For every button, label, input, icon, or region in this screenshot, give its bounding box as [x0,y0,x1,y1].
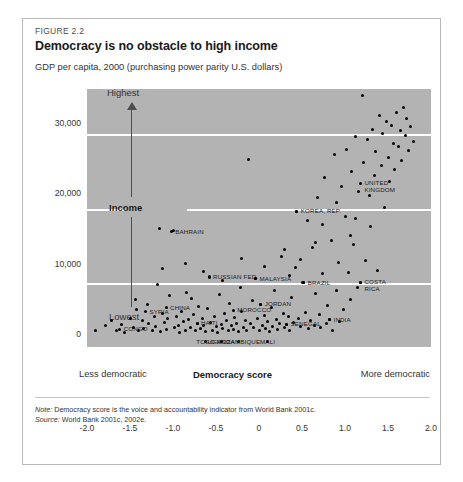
data-point [380,164,383,167]
data-point [216,331,219,334]
data-point [357,190,360,193]
figure-title: Democracy is no obstacle to high income [35,39,278,53]
point-label: UNITEDKINGDOM [364,179,395,193]
data-point [349,234,352,237]
data-point [325,322,328,325]
y-tick-30000: 30,000 [33,118,81,128]
data-point [393,168,396,171]
data-point [206,307,209,310]
data-point [337,261,340,264]
data-point [129,317,132,320]
data-point [288,329,291,332]
data-point [165,328,168,331]
data-point [151,329,154,332]
data-point [159,330,162,333]
data-point [184,262,187,265]
data-point [283,326,286,329]
note-label: Note: [35,405,52,414]
gridline-30000 [87,134,431,136]
data-point [323,176,326,179]
data-point [204,330,207,333]
data-point [342,308,345,311]
data-point [344,215,347,218]
y-tick-20000: 20,000 [33,188,81,198]
data-point [368,194,371,197]
data-point [263,265,266,268]
data-point [233,316,236,319]
data-point [335,289,338,292]
data-point [161,267,164,270]
data-point [297,317,300,320]
data-point [299,258,302,261]
income-axis-label: Income [109,202,142,213]
footnote-divider [35,397,430,398]
data-point [156,283,159,286]
data-point [399,129,402,132]
point-label: CONGO [124,325,148,332]
data-point [221,327,224,330]
note-text: Democracy score is the voice and account… [52,405,316,414]
labeled-data-point [295,210,298,213]
data-point [321,272,324,275]
data-point [287,315,290,318]
data-point [211,329,214,332]
data-point [407,149,410,152]
x-tick--1: -1.0 [153,423,193,433]
data-point [163,321,166,324]
labeled-data-point [208,276,211,279]
data-point [354,217,357,220]
data-point [333,153,336,156]
figure-panel: FIGURE 2.2 Democracy is no obstacle to h… [22,18,441,465]
data-point [252,326,255,329]
data-point [374,150,377,153]
point-label: INDIA [334,316,351,323]
data-point [239,286,242,289]
income-highest-label: Highest [107,89,139,98]
data-point [218,293,221,296]
data-point [369,225,372,228]
x-tick-1.5: 1.5 [368,423,408,433]
data-point [376,269,379,272]
data-point [94,329,97,332]
data-point [263,314,266,317]
data-point [249,322,252,325]
data-point [190,297,193,300]
data-point [392,142,395,145]
data-point [278,322,281,325]
point-label: BAHRAIN [175,228,204,235]
labeled-data-point [170,230,173,233]
data-point [235,322,238,325]
data-point [383,206,386,209]
data-point [350,170,353,173]
data-point [244,319,247,322]
labeled-data-point [118,328,121,331]
data-point [364,259,367,262]
figure-subtitle: GDP per capita, 2000 (purchasing power p… [35,62,282,72]
data-point [173,326,176,329]
data-point [378,114,381,117]
data-point [330,239,333,242]
data-point [134,298,137,301]
data-point [158,227,161,230]
data-point [283,248,286,251]
data-point [251,299,254,302]
data-point [168,294,171,297]
data-point [387,156,390,159]
data-point [275,318,278,321]
point-label: CHINA [170,304,190,311]
data-point [237,330,240,333]
data-point [185,291,188,294]
data-point [276,328,279,331]
data-point [390,124,393,127]
x-tick-0.5: 0.5 [282,423,322,433]
data-point [154,325,157,328]
data-point [345,148,348,151]
data-point [352,243,355,246]
scatter-plot-area: Highest Income Lowest CONGOSYRIACHINAHAI… [87,89,431,347]
data-point [110,319,113,322]
data-point [395,111,398,114]
data-point [321,223,324,226]
labeled-data-point [259,303,262,306]
data-point [405,117,408,120]
data-point [220,323,223,326]
